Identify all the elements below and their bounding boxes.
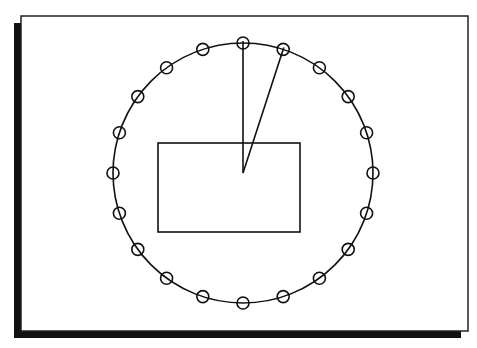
frame-border [21,16,468,331]
frame [14,16,468,338]
clock-diagram [0,0,477,348]
